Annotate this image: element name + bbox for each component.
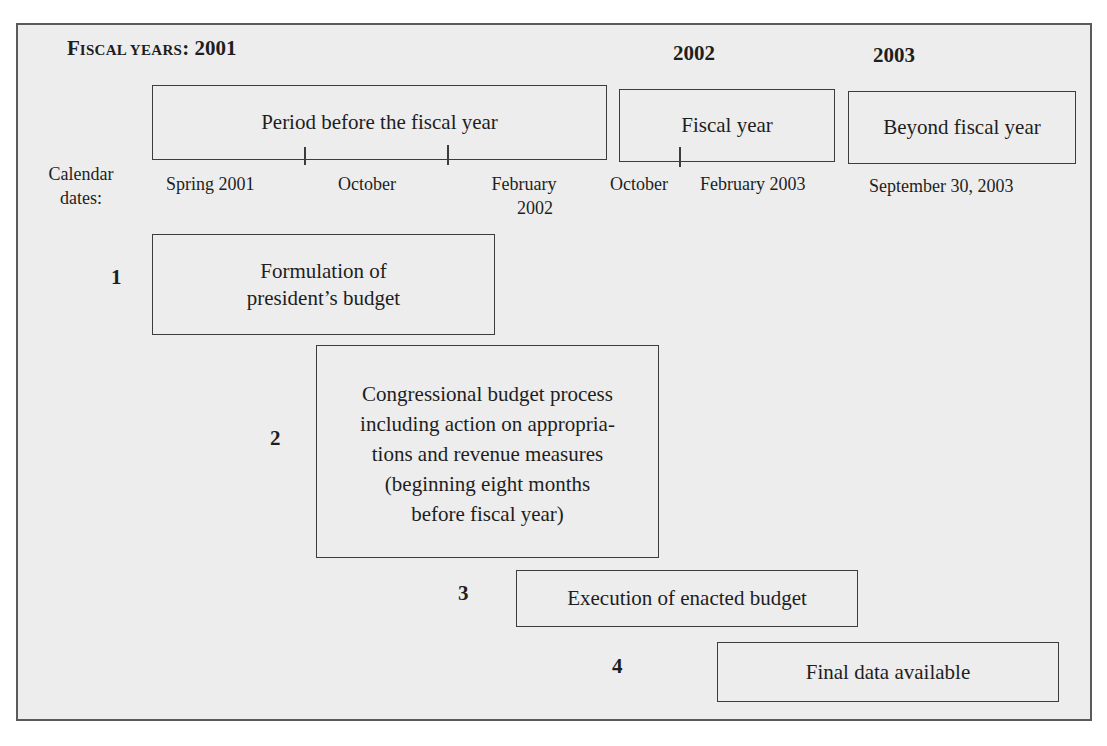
beyond-fiscal-year-box: Beyond fiscal year bbox=[848, 91, 1076, 164]
date-october-2002: October bbox=[610, 172, 668, 196]
stage-4-label: Final data available bbox=[806, 659, 970, 686]
calendar-label-line2: dates: bbox=[36, 186, 126, 210]
beyond-fiscal-year-label: Beyond fiscal year bbox=[883, 114, 1040, 141]
tick-february-2002 bbox=[447, 145, 449, 165]
tick-october-2002 bbox=[679, 147, 681, 167]
stage-2-line: including action on appropria- bbox=[360, 409, 615, 439]
tick-october-2001 bbox=[304, 147, 306, 165]
date-february-2002: February 2002 bbox=[474, 172, 574, 220]
date-february-line1: February bbox=[474, 172, 574, 196]
date-september-30-2003: September 30, 2003 bbox=[869, 174, 1013, 198]
date-february-line2: 2002 bbox=[474, 196, 574, 220]
fiscal-year-label: Fiscal year bbox=[681, 112, 773, 139]
year-2002-label: 2002 bbox=[673, 41, 715, 66]
stage-2-line: before fiscal year) bbox=[411, 499, 564, 529]
stage-1-line: Formulation of bbox=[260, 258, 387, 285]
fiscal-year-box: Fiscal year bbox=[619, 89, 835, 162]
stage-3-number: 3 bbox=[458, 581, 469, 606]
diagram-title: FISCAL YEARS: 2001 bbox=[67, 36, 236, 61]
period-before-label: Period before the fiscal year bbox=[261, 109, 498, 136]
stage-2-line: (beginning eight months bbox=[385, 469, 590, 499]
title-cap: F bbox=[67, 36, 80, 60]
stage-2-line: Congressional budget process bbox=[362, 379, 613, 409]
stage-1-number: 1 bbox=[111, 265, 122, 290]
date-spring-2001: Spring 2001 bbox=[166, 172, 255, 196]
calendar-dates-label: Calendar dates: bbox=[36, 162, 126, 210]
stage-1-box: Formulation of president’s budget bbox=[152, 234, 495, 335]
stage-2-number: 2 bbox=[270, 426, 281, 451]
date-october-2001: October bbox=[338, 172, 396, 196]
title-year-2001: : 2001 bbox=[182, 36, 236, 60]
year-2003-label: 2003 bbox=[873, 43, 915, 68]
period-before-fiscal-year-box: Period before the fiscal year bbox=[152, 85, 607, 160]
stage-1-line: president’s budget bbox=[247, 285, 400, 312]
calendar-label-line1: Calendar bbox=[36, 162, 126, 186]
stage-2-box: Congressional budget process including a… bbox=[316, 345, 659, 558]
stage-3-box: Execution of enacted budget bbox=[516, 570, 858, 627]
stage-4-box: Final data available bbox=[717, 642, 1059, 702]
stage-4-number: 4 bbox=[612, 654, 623, 679]
date-february-2003: February 2003 bbox=[700, 172, 805, 196]
stage-2-line: tions and revenue measures bbox=[372, 439, 604, 469]
title-smallcaps: ISCAL YEARS bbox=[80, 42, 182, 58]
stage-3-label: Execution of enacted budget bbox=[567, 585, 807, 612]
